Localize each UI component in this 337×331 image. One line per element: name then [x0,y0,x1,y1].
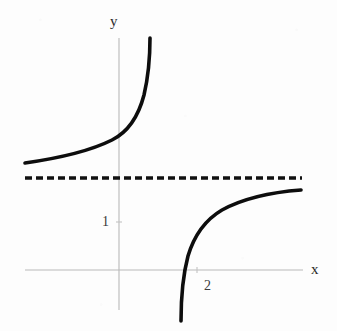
plot-canvas [0,0,337,331]
x-axis-label: x [311,262,319,277]
y-axis-label: y [110,14,118,29]
chart-figure: y x 1 2 [0,0,337,331]
curve-branch-right [181,190,301,321]
curve-branch-left [25,38,150,163]
x-axis-tick-label-2: 2 [204,279,211,293]
y-axis-tick-label-1: 1 [102,215,109,229]
